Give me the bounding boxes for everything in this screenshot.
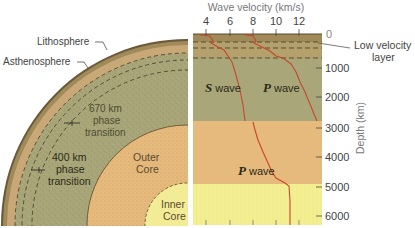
low-velocity-label-2: layer — [372, 51, 395, 63]
y-tick-2000: 2000 — [325, 91, 349, 103]
y-tick-6000: 6000 — [325, 210, 349, 222]
x-tick-6: 6 — [227, 15, 233, 27]
x-tick-12: 12 — [293, 15, 305, 27]
transition-400-label-1: 400 km — [52, 151, 87, 163]
x-axis-title: Wave velocity (km/s) — [208, 1, 304, 13]
region-mantle — [193, 58, 322, 121]
x-tick-8: 8 — [250, 15, 256, 27]
low-velocity-label-1: Low velocity — [354, 39, 412, 51]
transition-670-label-3: transition — [85, 127, 126, 138]
asthenosphere-label: Asthenosphere — [3, 56, 71, 67]
inner-core-label-1: Inner — [161, 198, 185, 210]
lithosphere-leader — [103, 42, 107, 50]
inner-core-label-2: Core — [163, 210, 186, 222]
y-tick-5000: 5000 — [325, 181, 349, 193]
outer-core-label-2: Core — [136, 163, 159, 175]
x-tick-10: 10 — [270, 15, 282, 27]
x-tick-4: 4 — [203, 15, 209, 27]
lithosphere-label: Lithosphere — [37, 36, 90, 47]
asthenosphere-leader — [84, 62, 88, 68]
earth-interior-diagram: Lithosphere Asthenosphere 670 km phase t… — [0, 0, 415, 228]
transition-400-label-2: phase — [56, 163, 85, 175]
transition-670-label-1: 670 km — [89, 103, 122, 114]
transition-670-label-2: phase — [93, 115, 121, 126]
p-wave-label-core: Pwave — [238, 163, 275, 178]
low-velocity-leader — [318, 43, 350, 48]
transition-400-label-3: transition — [48, 175, 91, 187]
y-tick-1000: 1000 — [325, 62, 349, 74]
y-tick-3000: 3000 — [325, 122, 349, 134]
velocity-depth-chart: Swave Pwave Pwave — [193, 29, 322, 225]
y-tick-4000: 4000 — [325, 151, 349, 163]
y-tick-0: 0 — [326, 28, 332, 40]
s-wave-label: Swave — [205, 80, 241, 95]
p-wave-label-mantle: Pwave — [263, 80, 300, 95]
y-axis-title: Depth (km) — [354, 102, 366, 154]
outer-core-label-1: Outer — [133, 151, 160, 163]
